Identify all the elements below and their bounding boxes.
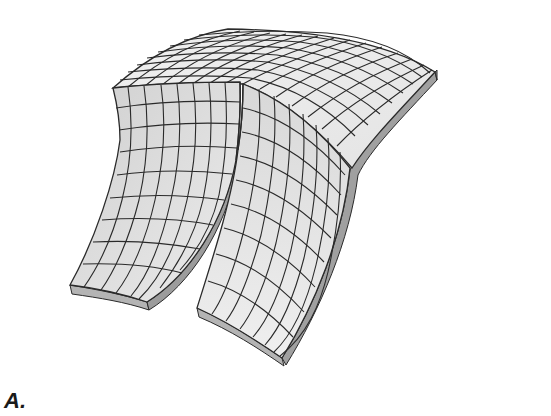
mesh-surface-diagram	[0, 0, 551, 416]
panel-label: A.	[4, 388, 26, 414]
